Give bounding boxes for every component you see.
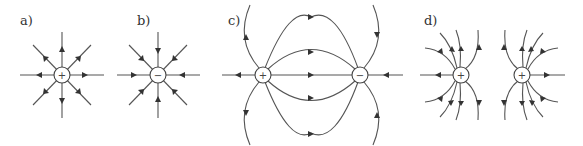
charge-sign-c-negative: −	[356, 70, 364, 81]
charge-sign-c-positive: +	[259, 70, 267, 81]
panel-label-c: c)	[228, 13, 240, 28]
panel-label-a: a)	[20, 13, 33, 28]
panel-c: c) + −	[222, 5, 403, 145]
field-lines-c	[222, 5, 403, 145]
field-lines-d-right	[501, 30, 565, 120]
field-lines-figure: a) + b)	[0, 0, 583, 146]
panel-label-b: b)	[137, 13, 150, 28]
panel-a: a) +	[20, 13, 104, 118]
panel-d: d)	[420, 13, 565, 120]
charge-sign-a: +	[58, 70, 66, 81]
panel-label-d: d)	[424, 13, 437, 28]
charge-sign-d-right: +	[518, 70, 526, 81]
field-lines-d-left	[420, 30, 482, 120]
charge-sign-d-left: +	[457, 70, 465, 81]
panel-b: b) −	[117, 13, 200, 118]
charge-sign-b: −	[154, 70, 162, 81]
